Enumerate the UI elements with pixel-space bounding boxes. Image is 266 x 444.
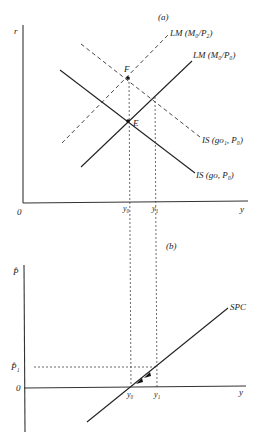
r-axis-label: r — [14, 26, 18, 36]
spc-curve — [87, 308, 228, 422]
origin-label-a: 0 — [17, 207, 22, 217]
y1-guide-line — [155, 97, 157, 387]
y0-tick-b: y₀ — [126, 390, 134, 399]
origin-label-b: 0 — [16, 383, 21, 393]
y-axis-label-b: y — [238, 387, 243, 397]
lm-p2-label: LM (M₀/P₂) — [169, 28, 213, 38]
spc-label: SPC — [230, 302, 247, 312]
point-f-label: F — [123, 64, 130, 74]
islm-spc-diagram: (a) r y 0 LM (M₀/P₂) LM (M₀/P₀) IS (go₁,… — [0, 0, 266, 444]
p1-tick-label: P̂₁ — [10, 362, 20, 372]
is-go1-label: IS (go₁, P₀) — [201, 135, 243, 145]
adjustment-arrows-icon — [136, 372, 151, 384]
panel-b-label: (b) — [166, 241, 177, 251]
lm-curve-p2 — [62, 35, 168, 143]
lm-curve-p0 — [81, 61, 192, 167]
p-axis-label: P̂ — [12, 267, 19, 277]
y1-tick-a: y₁ — [151, 204, 159, 213]
panel-a: (a) r y 0 LM (M₀/P₂) LM (M₀/P₀) IS (go₁,… — [14, 12, 248, 217]
is-go-label: IS (go, P₀) — [195, 170, 234, 180]
y-axis-label-a: y — [239, 204, 244, 214]
y1-tick-b: y₁ — [153, 390, 161, 399]
y0-tick-a: y₀ — [122, 204, 130, 213]
panel-a-label: (a) — [158, 12, 169, 22]
is-curve-go1 — [81, 44, 200, 137]
p-axis — [24, 265, 25, 432]
panel-b: (b) P̂ y 0 P̂₁ SPC y₀ y₁ — [10, 241, 247, 432]
lm-p0-label: LM (M₀/P₀) — [192, 50, 236, 60]
y-axis-b — [24, 386, 246, 388]
point-e-label: E — [132, 118, 139, 128]
y-axis-a — [23, 201, 248, 203]
